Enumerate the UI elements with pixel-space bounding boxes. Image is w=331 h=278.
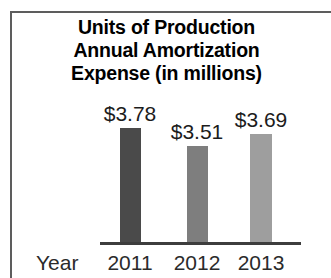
bar-2013	[250, 134, 272, 244]
x-tick-label: 2013	[231, 251, 291, 275]
x-axis-line	[100, 242, 301, 245]
bar-2012	[187, 146, 208, 244]
x-tick-label: 2011	[100, 251, 160, 275]
x-axis-title: Year	[36, 251, 78, 275]
bar-value-label: $3.69	[221, 109, 301, 130]
bar-2011	[120, 128, 141, 244]
plot-area: $3.78 $3.51 $3.69 Year 2011 2012 2013	[0, 0, 331, 278]
chart-figure: Units of Production Annual Amortization …	[0, 0, 331, 278]
x-tick-label: 2012	[167, 251, 227, 275]
